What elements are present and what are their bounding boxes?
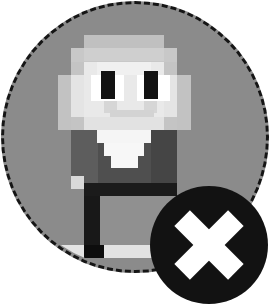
remove-avatar-button[interactable]: Remove [150, 186, 268, 304]
close-x-icon[interactable] [150, 186, 268, 304]
avatar-alt-text: Pixel art character avatar [0, 0, 1, 1]
